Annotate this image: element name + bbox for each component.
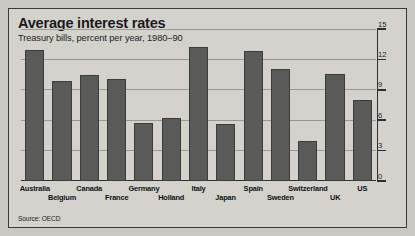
x-axis-label: Italy — [192, 184, 206, 193]
bar — [162, 118, 181, 181]
x-axis-label: Spain — [244, 184, 263, 193]
y-axis-tick-label: 12 — [378, 51, 386, 59]
y-axis-tick-label: 15 — [378, 21, 386, 29]
bar — [189, 47, 208, 181]
source-note: Source: OECD — [18, 215, 60, 222]
bar — [244, 51, 263, 181]
bar — [216, 124, 235, 181]
bar — [25, 50, 44, 181]
y-axis-tick-label: 3 — [378, 142, 382, 150]
bar — [107, 79, 126, 181]
x-axis-label: UK — [330, 193, 340, 202]
bar — [353, 100, 372, 181]
bar — [298, 141, 317, 181]
x-axis-label: US — [357, 184, 367, 193]
x-axis-label: Japan — [215, 193, 236, 202]
chart-card: Average interest rates Treasury bills, p… — [8, 8, 407, 228]
bar — [134, 123, 153, 181]
y-axis-tick-label: 9 — [378, 81, 382, 89]
bar — [80, 75, 99, 181]
y-axis-line — [377, 29, 379, 181]
chart-screenshot: Average interest rates Treasury bills, p… — [0, 0, 415, 236]
x-axis-label: Sweden — [267, 193, 294, 202]
y-axis-tick-label: 0 — [378, 173, 382, 181]
plot-inner: 03691215 — [21, 29, 376, 181]
bar — [325, 74, 344, 181]
x-axis-label: Canada — [76, 184, 102, 193]
bar — [271, 69, 290, 181]
gridline — [21, 29, 376, 30]
y-axis-tick-label: 6 — [378, 112, 382, 120]
x-axis-label: Belgium — [48, 193, 76, 202]
x-axis-label: Germany — [128, 184, 159, 193]
bar — [52, 81, 71, 181]
x-axis-label: Switzerland — [288, 184, 327, 193]
x-axis-label: Australia — [20, 184, 50, 193]
plot-area: 03691215 — [21, 29, 376, 181]
x-axis-label: Holland — [158, 193, 184, 202]
x-axis-label: France — [105, 193, 128, 202]
